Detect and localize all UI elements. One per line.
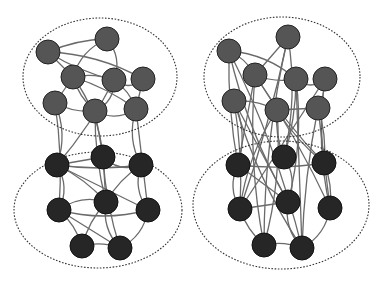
node-left-bottom xyxy=(129,153,153,177)
node-right-top xyxy=(243,63,267,87)
node-left-top xyxy=(83,99,107,123)
node-left-bottom xyxy=(45,153,69,177)
node-right-bottom xyxy=(318,196,342,220)
node-left-top xyxy=(43,91,67,115)
node-right-top xyxy=(217,39,241,63)
edges-layer xyxy=(48,37,331,248)
node-left-top xyxy=(36,40,60,64)
inter-cluster-edge xyxy=(240,37,288,209)
node-right-top xyxy=(276,25,300,49)
node-left-top xyxy=(95,27,119,51)
node-right-bottom xyxy=(290,236,314,260)
node-right-top xyxy=(284,67,308,91)
node-right-bottom xyxy=(312,151,336,175)
node-right-bottom xyxy=(252,233,276,257)
node-left-top xyxy=(102,68,126,92)
node-left-top xyxy=(131,67,155,91)
node-left-bottom xyxy=(70,234,94,258)
node-left-bottom xyxy=(94,190,118,214)
node-left-top xyxy=(61,65,85,89)
node-right-top xyxy=(222,89,246,113)
node-right-top xyxy=(313,67,337,91)
node-left-bottom xyxy=(47,198,71,222)
node-left-bottom xyxy=(91,145,115,169)
node-right-top xyxy=(265,98,289,122)
node-left-top xyxy=(124,97,148,121)
node-right-top xyxy=(306,96,330,120)
node-right-bottom xyxy=(276,190,300,214)
node-right-bottom xyxy=(272,145,296,169)
cluster-outlines-layer xyxy=(14,17,369,269)
node-right-bottom xyxy=(226,153,250,177)
node-left-bottom xyxy=(108,236,132,260)
network-diagram xyxy=(0,0,377,284)
node-left-bottom xyxy=(136,198,160,222)
inter-cluster-edge xyxy=(296,79,302,248)
node-right-bottom xyxy=(228,197,252,221)
